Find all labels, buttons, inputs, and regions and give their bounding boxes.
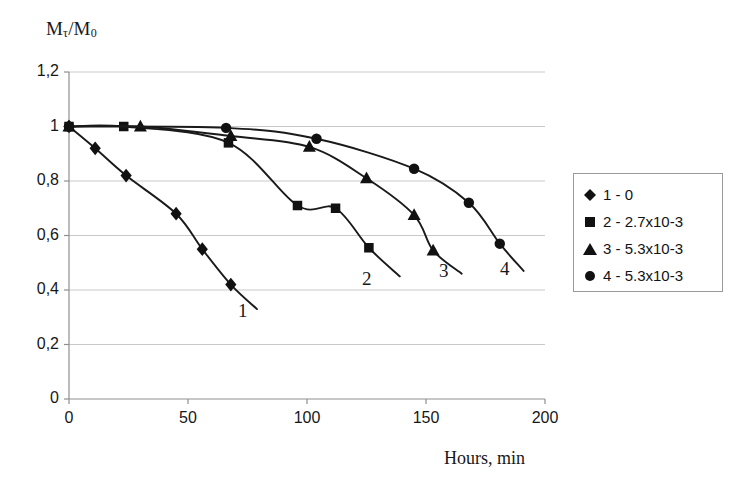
data-point-circle <box>221 123 231 133</box>
series-line <box>69 126 462 274</box>
legend-item-label: 3 - 5.3x10-3 <box>603 240 683 257</box>
legend: 1 - 02 - 2.7x10-33 - 5.3x10-34 - 5.3x10-… <box>573 173 723 292</box>
x-axis-title: Hours, min <box>444 448 525 469</box>
data-point-circle <box>409 164 419 174</box>
data-point-circle <box>64 121 74 131</box>
x-axis-tick-label: 0 <box>39 409 99 427</box>
curve-end-label: 4 <box>500 258 510 280</box>
data-point-triangle <box>427 244 440 256</box>
triangle-marker-icon <box>582 241 598 257</box>
x-axis-tick-label: 100 <box>277 409 337 427</box>
y-axis-tick-label: 1,2 <box>13 62 59 80</box>
data-point-square <box>364 243 374 253</box>
legend-item[interactable]: 4 - 5.3x10-3 <box>582 262 722 289</box>
square-marker-icon <box>582 214 598 230</box>
y-axis-tick-label: 0 <box>13 389 59 407</box>
data-point-square <box>331 204 341 214</box>
series-line <box>69 126 524 270</box>
curve-end-label: 3 <box>439 260 449 282</box>
data-point-square <box>293 201 303 211</box>
chart-figure: Mτ/M0 00,20,40,60,811,2 050100150200 123… <box>0 0 735 494</box>
data-point-diamond <box>90 141 101 155</box>
y-axis-tick-label: 1 <box>13 117 59 135</box>
y-axis-tick-label: 0,6 <box>13 226 59 244</box>
circle-marker-icon <box>582 268 598 284</box>
legend-item[interactable]: 1 - 0 <box>582 181 722 208</box>
y-axis-tick-label: 0,4 <box>13 280 59 298</box>
legend-item[interactable]: 3 - 5.3x10-3 <box>582 235 722 262</box>
legend-item-label: 4 - 5.3x10-3 <box>603 267 683 284</box>
x-axis-tick-label: 50 <box>158 409 218 427</box>
diamond-marker-icon <box>582 187 598 203</box>
data-point-circle <box>495 238 505 248</box>
data-point-diamond <box>121 169 132 183</box>
y-axis-tick-label: 0,2 <box>13 335 59 353</box>
legend-item[interactable]: 2 - 2.7x10-3 <box>582 208 722 235</box>
x-axis-tick-label: 150 <box>396 409 456 427</box>
curve-end-label: 1 <box>238 300 248 322</box>
curve-end-label: 2 <box>362 268 372 290</box>
legend-item-label: 1 - 0 <box>603 186 633 203</box>
x-axis-tick-label: 200 <box>515 409 575 427</box>
data-point-circle <box>464 198 474 208</box>
data-point-triangle <box>360 171 373 183</box>
y-axis-tick-label: 0,8 <box>13 171 59 189</box>
legend-item-label: 2 - 2.7x10-3 <box>603 213 683 230</box>
data-point-circle <box>311 134 321 144</box>
